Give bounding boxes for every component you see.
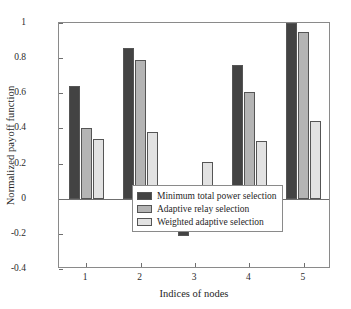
x-tick-label: 3 xyxy=(174,272,214,282)
bar xyxy=(244,92,255,199)
y-tick-label: 0.2 xyxy=(0,158,26,168)
chart-legend: Minimum total power selectionAdaptive re… xyxy=(132,185,283,232)
y-tick-mark xyxy=(59,164,63,165)
bar xyxy=(232,65,243,199)
x-tick-mark xyxy=(249,263,250,267)
legend-swatch xyxy=(137,205,152,213)
y-tick-mark xyxy=(59,199,63,200)
x-tick-mark xyxy=(195,263,196,267)
bar xyxy=(298,32,309,199)
y-axis-title-text: Normalized payoff function xyxy=(6,85,17,205)
legend-item: Minimum total power selection xyxy=(137,189,277,202)
bar xyxy=(310,121,321,198)
x-axis-title-text: Indices of nodes xyxy=(160,288,229,299)
bar xyxy=(286,23,297,199)
y-tick-label: -0.4 xyxy=(0,263,26,273)
x-axis-title: Indices of nodes xyxy=(58,288,330,299)
legend-label: Minimum total power selection xyxy=(157,191,277,201)
y-tick-mark xyxy=(59,234,63,235)
y-tick-mark xyxy=(59,269,63,270)
x-tick-label: 4 xyxy=(228,272,268,282)
y-tick-label: 0.8 xyxy=(0,52,26,62)
x-tick-label: 1 xyxy=(65,272,105,282)
legend-label: Weighted adaptive selection xyxy=(157,217,264,227)
legend-swatch xyxy=(137,192,152,200)
legend-item: Adaptive relay selection xyxy=(137,202,277,215)
y-tick-label: 0 xyxy=(0,193,26,203)
y-tick-label: 0.4 xyxy=(0,122,26,132)
x-tick-label: 2 xyxy=(120,272,160,282)
y-tick-label: 1 xyxy=(0,17,26,27)
legend-label: Adaptive relay selection xyxy=(157,204,249,214)
bar xyxy=(93,139,104,199)
legend-item: Weighted adaptive selection xyxy=(137,215,277,228)
x-tick-mark xyxy=(141,263,142,267)
bar xyxy=(81,128,92,198)
y-tick-mark xyxy=(59,58,63,59)
bar xyxy=(135,60,146,199)
x-tick-mark xyxy=(86,263,87,267)
y-tick-mark xyxy=(59,128,63,129)
bar xyxy=(123,48,134,199)
y-tick-label: -0.2 xyxy=(0,228,26,238)
x-tick-label: 5 xyxy=(283,272,323,282)
legend-swatch xyxy=(137,218,152,226)
bar-chart-figure: Normalized payoff function 10.80.60.40.2… xyxy=(0,0,351,309)
bar xyxy=(69,86,80,198)
x-tick-mark xyxy=(304,263,305,267)
y-tick-mark xyxy=(59,93,63,94)
y-tick-label: 0.6 xyxy=(0,87,26,97)
y-tick-mark xyxy=(59,23,63,24)
